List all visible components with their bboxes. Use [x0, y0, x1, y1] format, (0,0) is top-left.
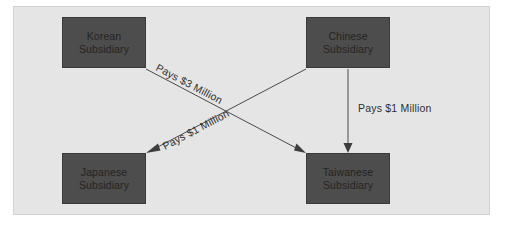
edge-chinese-to-taiwanese[interactable]: Pays $1 Million: [344, 69, 432, 153]
diagram-edges-layer: Pays $3 Million Pays $1 Million Pays $1 …: [0, 0, 505, 230]
arrowhead-into-taiwanese-from-chinese: [344, 143, 353, 153]
diagram-screenshot: Korean Subsidiary Chinese Subsidiary Jap…: [0, 0, 505, 230]
edge-label-chinese-to-taiwanese: Pays $1 Million: [358, 102, 432, 114]
edge-label-korean-to-taiwanese: Pays $3 Million: [154, 61, 225, 106]
arrowhead-into-japanese-from-chinese: [146, 144, 161, 154]
arrowhead-into-taiwanese-from-korean: [294, 144, 306, 154]
edge-label-chinese-to-japanese: Pays $1 Million: [160, 107, 231, 152]
